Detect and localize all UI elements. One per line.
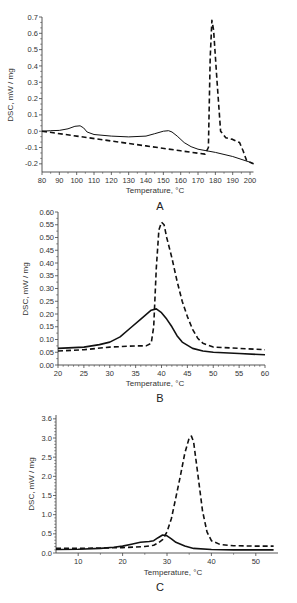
y-tick-label: 0.5: [42, 529, 52, 538]
panel-a-label: A: [156, 200, 164, 212]
dashed-curve: [42, 20, 254, 164]
panel-a-xlabel: Temperature, °C: [126, 186, 185, 195]
x-tick-label: 180: [209, 176, 222, 185]
chart-panel-b: 2025303540455055600.000.050.100.150.200.…: [39, 208, 269, 378]
dsc-figure: 8090100110120130140150160170180190200-0.…: [0, 0, 297, 603]
y-tick-label: 2.0: [42, 472, 52, 481]
y-tick-label: 0.20: [39, 310, 54, 319]
y-tick-label: 0.45: [39, 246, 54, 255]
panel-c-ylabel: DSC, mW / mg: [27, 457, 36, 510]
y-tick-label: 0.4: [28, 62, 38, 71]
y-tick-label: 0.3: [28, 78, 38, 87]
x-tick-label: 35: [131, 369, 139, 378]
x-tick-label: 140: [140, 176, 153, 185]
x-tick-label: 120: [105, 176, 118, 185]
x-tick-label: 160: [174, 176, 187, 185]
panel-b-xlabel: Temperature, °C: [126, 379, 185, 388]
y-tick-label: 0.30: [39, 284, 54, 293]
y-tick-label: 0.7: [28, 13, 38, 22]
chart-panel-c: 10203040500.00.51.01.52.02.53.03.6: [42, 414, 278, 566]
chart-panel-a: 8090100110120130140150160170180190200-0.…: [25, 13, 256, 185]
y-tick-label: 3.0: [42, 434, 52, 443]
x-tick-label: 110: [88, 176, 100, 185]
dashed-curve: [58, 222, 265, 351]
x-tick-label: 60: [261, 369, 269, 378]
y-tick-label: 3.6: [42, 414, 52, 423]
x-tick-label: 190: [226, 176, 239, 185]
x-tick-label: 100: [70, 176, 83, 185]
y-tick-label: 1.0: [42, 510, 52, 519]
y-tick-label: -0.2: [25, 159, 38, 168]
y-tick-label: 0.2: [28, 94, 38, 103]
x-tick-label: 80: [38, 176, 46, 185]
y-tick-label: 0.1: [28, 110, 38, 119]
y-tick-label: 0.50: [39, 233, 54, 242]
x-tick-label: 40: [157, 369, 165, 378]
x-tick-label: 20: [118, 557, 126, 566]
x-tick-label: 40: [207, 557, 215, 566]
x-tick-label: 25: [80, 369, 88, 378]
x-tick-label: 90: [55, 176, 63, 185]
y-tick-label: 0.0: [28, 127, 38, 136]
y-tick-label: 0.40: [39, 259, 54, 268]
x-tick-label: 50: [209, 369, 217, 378]
dashed-curve: [56, 436, 274, 548]
y-tick-label: 0.0: [42, 549, 52, 558]
y-tick-label: 1.5: [42, 491, 52, 500]
x-tick-label: 170: [192, 176, 205, 185]
y-tick-label: -0.1: [25, 143, 38, 152]
x-tick-label: 30: [106, 369, 114, 378]
y-tick-label: 2.5: [42, 453, 52, 462]
panel-b-ylabel: DSC, mW / mg: [21, 262, 30, 315]
y-tick-label: 0.00: [39, 361, 54, 370]
x-tick-label: 30: [163, 557, 171, 566]
x-tick-label: 50: [252, 557, 260, 566]
y-tick-label: 0.35: [39, 271, 54, 280]
y-tick-label: 0.5: [28, 45, 38, 54]
panel-b-label: B: [156, 392, 163, 404]
x-tick-label: 20: [54, 369, 62, 378]
x-tick-label: 130: [122, 176, 135, 185]
y-tick-label: 0.10: [39, 335, 54, 344]
x-tick-label: 10: [74, 557, 82, 566]
y-tick-label: 0.05: [39, 348, 54, 357]
y-tick-label: 0.15: [39, 322, 54, 331]
x-tick-label: 200: [244, 176, 257, 185]
panel-c-label: C: [156, 581, 164, 593]
panel-a-ylabel: DSC, mW / mg: [6, 68, 15, 121]
x-tick-label: 150: [157, 176, 170, 185]
y-tick-label: 0.55: [39, 220, 54, 229]
x-tick-label: 45: [183, 369, 191, 378]
y-tick-label: 0.60: [39, 208, 54, 217]
y-tick-label: 0.6: [28, 29, 38, 38]
y-tick-label: 0.25: [39, 297, 54, 306]
panel-c-xlabel: Temperature, °C: [144, 568, 203, 577]
x-tick-label: 55: [235, 369, 243, 378]
